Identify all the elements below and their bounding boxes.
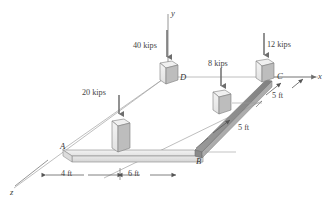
load-8-kips-label: 8 kips	[208, 60, 228, 68]
beam-ab	[63, 150, 203, 162]
load-12-kips-label: 12 kips	[267, 41, 291, 49]
z-axis-label: z	[10, 188, 13, 197]
load-40-kips-label: 40 kips	[133, 42, 157, 50]
dim-5-ft-lower-label: 5 ft	[238, 124, 249, 132]
figure-drawing	[0, 0, 329, 201]
dim-6-ft-label: 6 ft	[128, 170, 139, 178]
y-axis-label: y	[171, 9, 175, 18]
load-20-kips-label: 20 kips	[82, 89, 106, 97]
point-d-label: D	[180, 73, 186, 82]
block-c	[256, 59, 274, 82]
point-a-label: A	[60, 142, 65, 151]
block-20kip	[112, 119, 130, 152]
dim-5-ft-upper-label: 5 ft	[272, 92, 283, 100]
point-b-label: B	[196, 157, 201, 166]
z-axis-line	[15, 160, 48, 186]
block-8kip	[213, 90, 231, 114]
beam-bc	[195, 80, 272, 158]
block-d	[160, 61, 178, 84]
statics-figure: y x z A B C D 40 kips 20 kips 8 kips 12 …	[0, 0, 329, 201]
dim-4-ft-label: 4 ft	[61, 170, 72, 178]
point-c-label: C	[277, 72, 283, 81]
x-axis-label: x	[318, 72, 322, 81]
